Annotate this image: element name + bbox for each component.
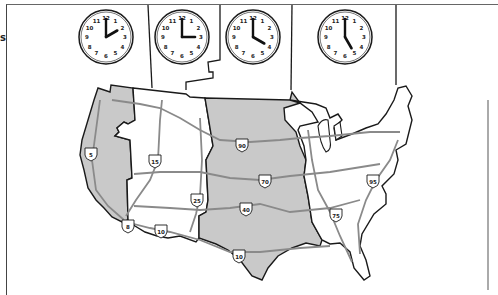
clock-eastern: 121234567891011	[318, 10, 372, 64]
clock-pacific: 121234567891011	[79, 10, 133, 64]
clock-number: 10	[162, 25, 170, 31]
svg-text:75: 75	[332, 213, 340, 219]
clock-number: 1	[114, 18, 118, 24]
clock-number: 7	[334, 50, 338, 56]
clock-number: 6	[251, 53, 255, 59]
clock-number: 2	[197, 25, 201, 31]
clock-number: 2	[121, 25, 125, 31]
shield-i75: 75	[330, 209, 342, 222]
clock-number: 4	[360, 44, 364, 50]
clock-number: 5	[353, 50, 357, 56]
clock-number: 11	[240, 18, 248, 24]
svg-text:90: 90	[238, 143, 246, 149]
clock-number: 3	[362, 34, 366, 40]
clock-number: 6	[180, 53, 184, 59]
shield-i10-west: 10	[155, 225, 167, 238]
clock-number: 9	[161, 34, 165, 40]
clock-number: 10	[86, 25, 94, 31]
shield-i25: 25	[191, 194, 203, 207]
clock-number: 8	[235, 44, 239, 50]
clock-number: 11	[93, 18, 101, 24]
svg-text:70: 70	[261, 179, 269, 185]
shield-i40: 40	[240, 203, 252, 216]
clock-number: 6	[104, 53, 108, 59]
clock-number: 5	[190, 50, 194, 56]
shield-i15: 15	[149, 155, 161, 168]
clock-number: 5	[261, 50, 265, 56]
clock-number: 4	[121, 44, 125, 50]
clock-number: 1	[190, 18, 194, 24]
shield-i8: 8	[122, 220, 134, 233]
clock-number: 8	[164, 44, 168, 50]
clock-number: 9	[85, 34, 89, 40]
eastern-zone	[290, 86, 412, 280]
clock-number: 8	[327, 44, 331, 50]
clock-number: 11	[169, 18, 177, 24]
shield-i95: 95	[367, 175, 379, 188]
clock-number: 9	[324, 34, 328, 40]
clock-number: 10	[325, 25, 333, 31]
clock-number: 2	[268, 25, 272, 31]
clock-central: 121234567891011	[226, 10, 280, 64]
svg-text:25: 25	[193, 198, 201, 204]
svg-text:5: 5	[89, 152, 93, 158]
clock-mountain: 121234567891011	[155, 10, 209, 64]
clock-number: 10	[233, 25, 241, 31]
svg-text:95: 95	[369, 179, 377, 185]
shield-i5: 5	[85, 148, 97, 161]
pacific-mountain-divider	[148, 5, 152, 88]
shield-i70: 70	[259, 175, 271, 188]
clock-number: 4	[197, 44, 201, 50]
clock-number: 4	[268, 44, 272, 50]
svg-text:10: 10	[235, 254, 243, 260]
clock-number: 1	[353, 18, 357, 24]
clock-number: 6	[343, 53, 347, 59]
clock-number: 3	[123, 34, 127, 40]
clock-number: 7	[171, 50, 175, 56]
clock-number: 1	[261, 18, 265, 24]
svg-text:40: 40	[242, 207, 250, 213]
clocks: 1212345678910111212345678910111212345678…	[79, 10, 372, 64]
clock-number: 2	[360, 25, 364, 31]
clock-number: 11	[332, 18, 340, 24]
shield-i90: 90	[236, 139, 248, 152]
clock-number: 9	[232, 34, 236, 40]
clock-number: 5	[114, 50, 118, 56]
central-eastern-divider	[291, 5, 292, 90]
svg-text:8: 8	[126, 224, 130, 230]
clock-number: 8	[88, 44, 92, 50]
shield-i10-central: 10	[233, 250, 245, 263]
svg-text:10: 10	[157, 229, 165, 235]
clock-number: 3	[199, 34, 203, 40]
clock-number: 3	[270, 34, 274, 40]
clock-number: 7	[95, 50, 99, 56]
clock-number: 7	[242, 50, 246, 56]
svg-text:15: 15	[151, 159, 159, 165]
